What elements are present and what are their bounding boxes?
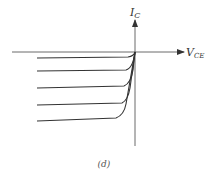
- characteristic-curves-diagram: IC VCE (d): [0, 0, 210, 181]
- y-axis-label: IC: [129, 6, 140, 20]
- curve-1: [37, 52, 135, 58]
- x-axis-label: VCE: [186, 46, 204, 60]
- curve-group: [37, 52, 135, 121]
- curve-4: [37, 52, 135, 105]
- curve-2: [37, 52, 135, 71]
- figure-caption: (d): [98, 159, 111, 169]
